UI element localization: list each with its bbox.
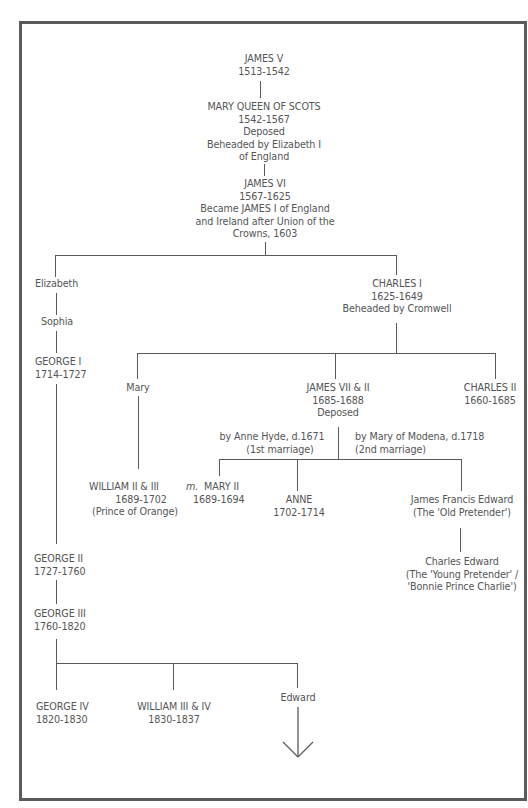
node-name: Sophia — [41, 316, 73, 329]
node-james-vi: JAMES VI 1567-1625 Became JAMES I of Eng… — [180, 178, 350, 241]
node-reign: 1689-1694 — [186, 494, 244, 507]
node-william-ii-iii: WILLIAM II & III 1689-1702 (Prince of Or… — [85, 481, 185, 519]
node-note: (The 'Young Pretender' / — [400, 569, 524, 582]
node-name: JAMES VII & II — [290, 382, 386, 395]
connector-line — [219, 459, 220, 476]
node-note: Beheaded by Cromwell — [335, 303, 459, 316]
node-george-i: GEORGE I 1714-1727 — [35, 356, 86, 381]
node-mary-queen-of-scots: MARY QUEEN OF SCOTS 1542-1567 Deposed Be… — [180, 101, 348, 164]
connector-line — [265, 242, 266, 255]
node-reign: 1714-1727 — [35, 369, 86, 382]
connector-line — [461, 459, 462, 491]
connector-line — [56, 580, 57, 604]
label-second-marriage: by Mary of Modena, d.1718 (2nd marriage) — [355, 431, 484, 456]
marriage-note: (2nd marriage) — [355, 444, 484, 457]
node-name: GEORGE II — [34, 553, 85, 566]
node-george-iv: GEORGE IV 1820-1830 — [36, 701, 89, 726]
node-name: GEORGE I — [35, 356, 86, 369]
marriage-note: (1st marriage) — [212, 444, 332, 457]
node-name: CHARLES II — [458, 382, 522, 395]
marriage-note: by Anne Hyde, d.1671 — [212, 431, 332, 444]
node-reign: 1702-1714 — [267, 507, 331, 520]
connector-line — [264, 164, 265, 176]
node-mary: Mary — [118, 382, 158, 395]
node-reign: 1820-1830 — [36, 714, 89, 727]
node-name: GEORGE III — [34, 608, 86, 621]
node-note: of England — [180, 151, 348, 164]
node-reign: 1567-1625 — [180, 191, 350, 204]
connector-line — [219, 459, 462, 460]
node-note: and Ireland after Union of the — [180, 216, 350, 229]
node-note: Deposed — [290, 407, 386, 420]
marriage-note: by Mary of Modena, d.1718 — [355, 431, 484, 444]
connector-line — [56, 293, 57, 315]
node-name: CHARLES I — [335, 278, 459, 291]
node-reign: 1513-1542 — [210, 66, 318, 79]
node-reign: 1660-1685 — [458, 395, 522, 408]
married-prefix: m. — [186, 481, 198, 492]
node-reign: 1542-1567 — [180, 114, 348, 127]
connector-line — [137, 353, 496, 354]
node-name: Elizabeth — [35, 278, 78, 291]
node-note: (The 'Old Pretender') — [403, 507, 521, 520]
node-note: Crowns, 1603 — [180, 228, 350, 241]
connector-line — [173, 663, 174, 690]
connector-line — [396, 323, 397, 353]
connector-line — [460, 528, 461, 552]
node-reign: 1760-1820 — [34, 621, 86, 634]
node-george-iii: GEORGE III 1760-1820 — [34, 608, 86, 633]
node-name: James Francis Edward — [403, 494, 521, 507]
node-charles-i: CHARLES I 1625-1649 Beheaded by Cromwell — [335, 278, 459, 316]
node-sophia: Sophia — [41, 316, 73, 329]
node-name: JAMES VI — [180, 178, 350, 191]
down-arrow-icon — [278, 706, 318, 762]
node-name: Edward — [278, 692, 318, 705]
node-note: Deposed — [180, 126, 348, 139]
node-name: WILLIAM III & IV — [128, 701, 220, 714]
connector-line — [297, 663, 298, 688]
node-anne: ANNE 1702-1714 — [267, 494, 331, 519]
connector-line — [335, 353, 336, 379]
node-george-ii: GEORGE II 1727-1760 — [34, 553, 85, 578]
connector-line — [56, 331, 57, 353]
label-first-marriage: by Anne Hyde, d.1671 (1st marriage) — [212, 431, 332, 456]
connector-line — [137, 353, 138, 379]
node-edward: Edward — [278, 692, 318, 705]
node-note: Beheaded by Elizabeth I — [180, 139, 348, 152]
node-note: Became JAMES I of England — [180, 203, 350, 216]
connector-line — [138, 396, 139, 469]
node-mary-ii: m. MARY II 1689-1694 — [186, 481, 244, 506]
node-charles-ii: CHARLES II 1660-1685 — [458, 382, 522, 407]
node-name: ANNE — [267, 494, 331, 507]
node-reign: 1625-1649 — [335, 291, 459, 304]
node-reign: 1727-1760 — [34, 566, 85, 579]
connector-line — [338, 427, 339, 459]
node-charles-edward: Charles Edward (The 'Young Pretender' / … — [400, 556, 524, 594]
node-name: WILLIAM II & III — [85, 481, 185, 494]
node-note: (Prince of Orange) — [85, 506, 185, 519]
node-reign: 1689-1702 — [85, 494, 185, 507]
connector-line — [55, 255, 56, 277]
connector-line — [56, 639, 57, 690]
node-name: Mary — [118, 382, 158, 395]
node-elizabeth: Elizabeth — [35, 278, 78, 291]
connector-line — [56, 663, 298, 664]
connector-line — [56, 384, 57, 544]
node-reign: 1685-1688 — [290, 395, 386, 408]
connector-line — [260, 81, 261, 98]
node-name: Charles Edward — [400, 556, 524, 569]
connector-line — [396, 255, 397, 275]
node-name: JAMES V — [210, 53, 318, 66]
node-james-vii-ii: JAMES VII & II 1685-1688 Deposed — [290, 382, 386, 420]
node-reign: 1830-1837 — [128, 714, 220, 727]
node-james-v: JAMES V 1513-1542 — [210, 53, 318, 78]
node-james-francis-edward: James Francis Edward (The 'Old Pretender… — [403, 494, 521, 519]
node-name: GEORGE IV — [36, 701, 89, 714]
connector-line — [297, 459, 298, 491]
node-name: MARY QUEEN OF SCOTS — [180, 101, 348, 114]
node-note: 'Bonnie Prince Charlie') — [400, 581, 524, 594]
node-name: MARY II — [204, 481, 239, 492]
node-william-iii-iv: WILLIAM III & IV 1830-1837 — [128, 701, 220, 726]
connector-line — [55, 255, 397, 256]
connector-line — [495, 353, 496, 379]
